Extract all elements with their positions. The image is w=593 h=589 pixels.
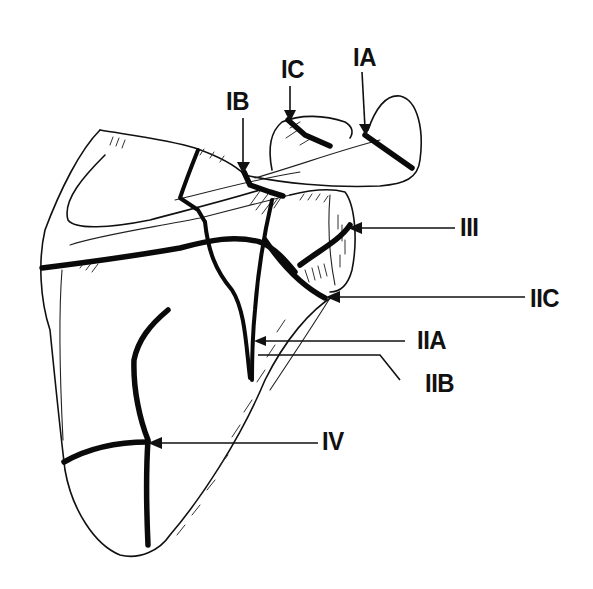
- label-IB: IB: [226, 88, 249, 114]
- label-IA: IA: [353, 44, 376, 70]
- label-IC: IC: [281, 56, 304, 82]
- medial-inner-line: [60, 270, 63, 440]
- label-IV: IV: [322, 428, 344, 454]
- fracture-lines: [42, 120, 412, 545]
- lateral-border-line: [270, 298, 330, 390]
- label-IIA: IIA: [417, 327, 446, 353]
- spine-inner-outline: [67, 155, 260, 227]
- label-IIB: IIB: [425, 370, 454, 396]
- fracture-IIA: [252, 200, 272, 380]
- label-III: III: [460, 214, 479, 240]
- fracture-III: [300, 225, 350, 265]
- fracture-IV-horizontal: [64, 442, 148, 462]
- leader-lines: [148, 72, 525, 449]
- coracoid-outline: [270, 116, 352, 170]
- fracture-IV-vertical: [134, 310, 168, 545]
- acromion-base-line: [255, 140, 380, 178]
- label-IIC: IIC: [530, 285, 559, 311]
- fracture-IA: [365, 135, 412, 168]
- scapula-drawing: [0, 0, 593, 589]
- fracture-IIB: [205, 222, 250, 378]
- diagram-canvas: IA IC IB III IIC IIA IIB IV: [0, 0, 593, 589]
- fracture-body-horizontal: [42, 239, 295, 272]
- spine-outline: [100, 130, 245, 175]
- scapula-outline: [41, 130, 335, 556]
- spine-lower-line: [70, 195, 290, 245]
